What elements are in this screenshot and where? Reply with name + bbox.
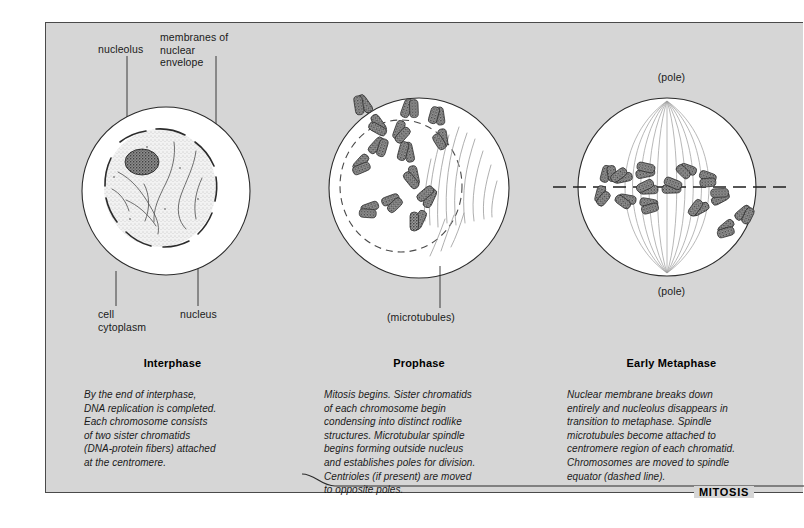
phase-title-interphase: Interphase xyxy=(46,357,299,369)
phase-caption-interphase: By the end of interphase, DNA replicatio… xyxy=(84,388,299,470)
nucleus-body xyxy=(104,129,216,247)
mitosis-figure-frame: nucleolus membranes of nuclear envelope … xyxy=(45,22,803,493)
label-nucleus: nucleus xyxy=(180,308,217,321)
phase-title-early-metaphase: Early Metaphase xyxy=(539,357,804,369)
label-cell-cytoplasm: cell cytoplasm xyxy=(98,308,146,333)
cell-membrane-outline xyxy=(329,98,509,278)
label-microtubules: (microtubules) xyxy=(387,311,455,324)
label-pole-top: (pole) xyxy=(539,71,804,84)
panel-prophase: (microtubules) Prophase Mitosis begins. … xyxy=(299,23,539,492)
nucleolus-body xyxy=(125,149,159,175)
phase-caption-early-metaphase: Nuclear membrane breaks down entirely an… xyxy=(567,388,795,483)
mitosis-bracket-label: MITOSIS xyxy=(694,486,754,498)
label-nuclear-envelope: membranes of nuclear envelope xyxy=(160,31,228,69)
panel-early-metaphase: (pole) (pole) Early Metaphase Nuclear me… xyxy=(539,23,804,492)
interphase-cell-illustration xyxy=(46,23,299,363)
phase-title-prophase: Prophase xyxy=(299,357,539,369)
label-pole-bottom: (pole) xyxy=(539,285,804,298)
label-nucleolus: nucleolus xyxy=(98,43,143,56)
panel-interphase: nucleolus membranes of nuclear envelope … xyxy=(46,23,299,492)
mitosis-bracket-path xyxy=(302,474,804,486)
